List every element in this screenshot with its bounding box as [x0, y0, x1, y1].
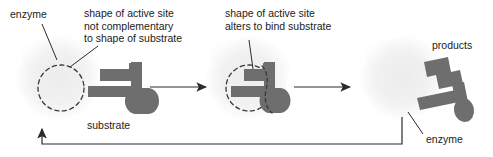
- products-label: products: [432, 39, 472, 51]
- stage-2-enzyme-substrate-complex: [206, 36, 290, 119]
- stage-1-free-enzyme-and-substrate: substrate: [16, 36, 159, 131]
- caption2-line-1: shape of active site: [225, 7, 315, 19]
- caption2-line-2: alters to bind substrate: [225, 20, 331, 32]
- caption-line-3: to shape of substrate: [84, 32, 182, 44]
- active-site-not-complementary-label: shape of active site not complementary t…: [84, 7, 182, 44]
- enzyme-left-label: enzyme: [10, 8, 47, 20]
- enzyme-induced-fit-diagram: substrate: [0, 0, 493, 157]
- enzyme-right-label: enzyme: [426, 133, 463, 145]
- caption-line-2: not complementary: [84, 20, 174, 32]
- substrate-label: substrate: [87, 119, 130, 131]
- active-site-alters-label: shape of active site alters to bind subs…: [225, 7, 331, 32]
- active-site-outline-left: [38, 65, 84, 111]
- caption-line-1: shape of active site: [84, 7, 174, 19]
